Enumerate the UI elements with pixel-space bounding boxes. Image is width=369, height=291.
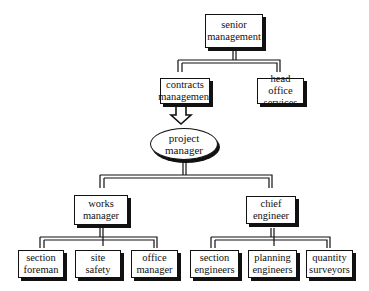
- node-label-line2: services: [264, 97, 298, 109]
- node-project-manager: project manager: [150, 128, 218, 160]
- node-label-line1: chief: [261, 198, 282, 210]
- node-label-line1: planning: [254, 252, 291, 264]
- node-label-line2: management: [207, 31, 261, 43]
- node-label-line2: engineer: [253, 210, 289, 222]
- node-quantity-surveyors: quantity surveyors: [306, 250, 353, 278]
- node-label-line1: contracts: [166, 79, 204, 91]
- node-label-line1: quantity: [312, 252, 346, 264]
- node-head-office-services: head office services: [257, 78, 304, 104]
- node-chief-engineer: chief engineer: [246, 196, 296, 224]
- node-senior-management: senior management: [205, 14, 263, 48]
- node-label-line1: project: [169, 132, 200, 144]
- node-section-foreman: section foreman: [18, 250, 64, 278]
- node-label-line2: manager: [83, 210, 119, 222]
- node-label-line2: surveyors: [309, 264, 350, 276]
- node-planning-engineers: planning engineers: [248, 250, 297, 278]
- node-label-line1: head office: [258, 73, 303, 97]
- node-label-line2: engineers: [194, 264, 234, 276]
- node-label-line2: manager: [136, 264, 172, 276]
- node-site-safety: site safety: [75, 250, 121, 278]
- node-office-manager: office manager: [131, 250, 178, 278]
- node-label-line2: engineers: [252, 264, 292, 276]
- node-label-line1: site: [91, 252, 106, 264]
- node-contracts-management: contracts management: [160, 78, 210, 104]
- node-label-line2: management: [158, 91, 212, 103]
- node-works-manager: works manager: [74, 195, 128, 225]
- node-section-engineers: section engineers: [190, 250, 239, 278]
- arrow-down-icon: [171, 106, 191, 124]
- node-label-line1: works: [88, 198, 114, 210]
- node-label-line1: section: [200, 252, 230, 264]
- node-label-line2: safety: [85, 264, 110, 276]
- node-label-line1: senior: [221, 19, 247, 31]
- node-label-line2: manager: [165, 144, 203, 156]
- node-label-line1: section: [26, 252, 56, 264]
- node-label-line2: foreman: [24, 264, 59, 276]
- node-label-line1: office: [142, 252, 166, 264]
